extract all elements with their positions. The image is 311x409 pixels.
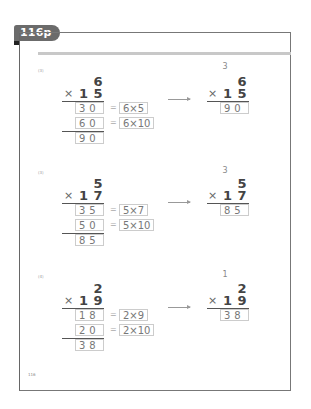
- times-sign: ×: [64, 294, 73, 308]
- short-multiplier-ones: 5: [237, 87, 247, 101]
- partial-product-2: 50: [75, 219, 104, 231]
- problem-label: (3): [38, 170, 44, 175]
- total-box: 85: [75, 234, 104, 246]
- equals-sign: =: [110, 102, 117, 114]
- partial-expression-1: 2×9: [119, 309, 148, 321]
- partial-expression-2: 5×10: [119, 219, 154, 231]
- equals-sign: =: [110, 219, 117, 231]
- partial-product-1: 35: [75, 204, 104, 216]
- multiplier-ones: 7: [93, 189, 103, 203]
- multiplier-tens: 1: [79, 87, 88, 101]
- equals-sign: =: [110, 117, 117, 129]
- times-sign: ×: [64, 87, 73, 101]
- partial-expression-2: 6×10: [119, 117, 154, 129]
- short-result-box: 85: [220, 204, 249, 216]
- page-frame: [19, 32, 291, 391]
- short-result-box: 38: [220, 309, 249, 321]
- short-times-sign: ×: [208, 189, 217, 203]
- short-times-sign: ×: [208, 294, 217, 308]
- partial-expression-1: 5×7: [119, 204, 148, 216]
- partial-expression-2: 2×10: [119, 324, 154, 336]
- partial-product-1: 30: [75, 102, 104, 114]
- short-result-box: 90: [220, 102, 249, 114]
- arrow-icon: [168, 307, 190, 308]
- partial-product-2: 20: [75, 324, 104, 336]
- multiplier-ones: 9: [93, 294, 103, 308]
- carry-digit: 3: [220, 166, 230, 175]
- carry-digit: 3: [220, 62, 230, 71]
- short-multiplier-tens: 1: [223, 87, 232, 101]
- multiplier-ones: 5: [93, 87, 103, 101]
- total-box: 38: [75, 339, 104, 351]
- equals-sign: =: [110, 324, 117, 336]
- arrow-icon: [168, 99, 190, 100]
- short-multiplier-ones: 9: [237, 294, 247, 308]
- header-bar: [38, 52, 291, 55]
- short-multiplier-tens: 1: [223, 294, 232, 308]
- short-multiplier-ones: 7: [237, 189, 247, 203]
- multiplier-tens: 1: [79, 294, 88, 308]
- short-multiplier-tens: 1: [223, 189, 232, 203]
- equals-sign: =: [110, 309, 117, 321]
- multiplier-tens: 1: [79, 189, 88, 203]
- partial-expression-1: 6×5: [119, 102, 148, 114]
- problem-label: (3): [38, 68, 44, 73]
- short-times-sign: ×: [208, 87, 217, 101]
- times-sign: ×: [64, 189, 73, 203]
- problem-label: (4): [38, 274, 44, 279]
- carry-digit: 1: [220, 270, 230, 279]
- equals-sign: =: [110, 204, 117, 216]
- arrow-icon: [168, 202, 190, 203]
- page-number: 116: [28, 372, 36, 377]
- total-box: 90: [75, 132, 104, 144]
- partial-product-2: 60: [75, 117, 104, 129]
- partial-product-1: 18: [75, 309, 104, 321]
